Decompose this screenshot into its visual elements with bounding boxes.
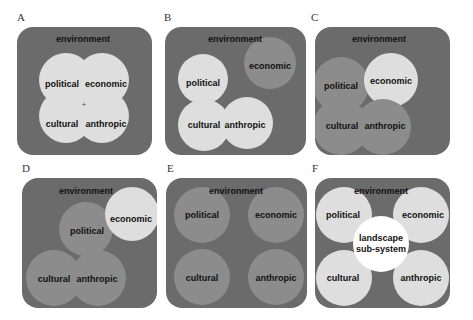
anthropic-label: anthropic	[255, 274, 296, 284]
anthropic-label: anthropic	[85, 120, 126, 130]
circle-anthropic	[75, 89, 129, 143]
anthropic-label: anthropic	[224, 121, 265, 131]
cultural-label: cultural	[188, 121, 221, 131]
cultural-label: cultural	[327, 274, 360, 284]
anthropic-label: anthropic	[76, 275, 117, 285]
environment-label: environment	[354, 186, 408, 196]
panel-label-e: E	[167, 163, 174, 174]
panel-e: environment political economic cultural …	[166, 178, 307, 308]
panel-label-b: B	[164, 12, 171, 23]
panel-label-f: F	[312, 163, 318, 174]
economic-label: economic	[249, 62, 291, 72]
panel-label-a: A	[17, 12, 25, 23]
panel-label-d: D	[22, 163, 30, 174]
political-label: political	[326, 211, 360, 221]
political-label: political	[45, 80, 79, 90]
anthropic-label: anthropic	[364, 122, 405, 132]
economic-label: economic	[370, 77, 412, 87]
environment-label: environment	[59, 186, 113, 196]
political-label: political	[70, 227, 104, 237]
panel-b: environment political economic cultural …	[165, 27, 306, 155]
cultural-label: cultural	[186, 274, 219, 284]
economic-label: economic	[85, 80, 127, 90]
economic-label: economic	[255, 211, 297, 221]
environment-label: environment	[209, 186, 263, 196]
political-label: political	[324, 82, 358, 92]
center-plus-mark: +	[82, 100, 87, 109]
environment-label: environment	[352, 34, 406, 44]
political-label: political	[185, 211, 219, 221]
political-label: political	[186, 79, 220, 89]
panel-c: environment political economic cultural …	[315, 27, 450, 155]
environment-label: environment	[208, 34, 262, 44]
cultural-label: cultural	[38, 275, 71, 285]
landscape-label-line1: landscape	[359, 234, 403, 244]
economic-label: economic	[110, 215, 152, 225]
environment-label: environment	[56, 34, 110, 44]
panel-f: environment political economic cultural …	[315, 178, 450, 308]
economic-label: economic	[402, 211, 444, 221]
panel-label-c: C	[311, 12, 318, 23]
anthropic-label: anthropic	[400, 274, 441, 284]
cultural-label: cultural	[326, 122, 359, 132]
cultural-label: cultural	[46, 120, 79, 130]
panel-d: environment political economic cultural …	[22, 178, 157, 308]
landscape-label-line2: sub-system	[356, 245, 406, 255]
panel-a: environment political economic cultural …	[17, 27, 152, 155]
